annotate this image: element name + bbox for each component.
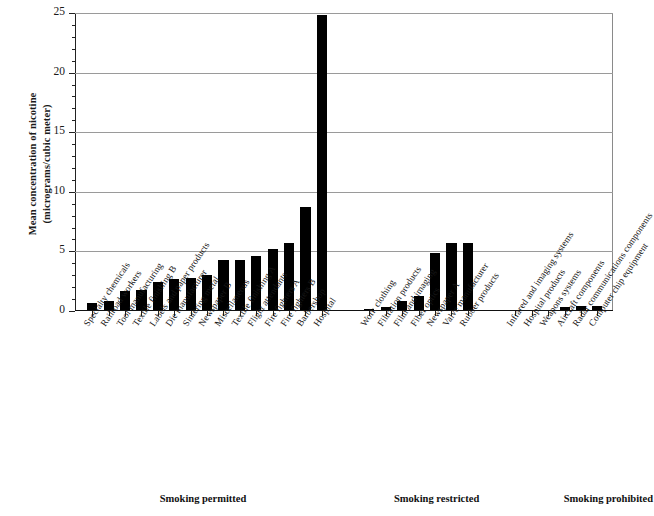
y-tick-minor-23 — [72, 37, 76, 38]
y-tick-minor-21 — [72, 61, 76, 62]
y-tick-minor-3 — [72, 275, 76, 276]
y-tick-minor-22 — [72, 49, 76, 50]
y-tick-major-5 — [69, 251, 75, 252]
y-tick-major-25 — [69, 13, 75, 14]
y-tick-label-10: 10 — [23, 184, 65, 196]
y-tick-minor-16 — [72, 120, 76, 121]
y-tick-major-15 — [69, 132, 75, 133]
gridline-10 — [75, 192, 613, 193]
y-tick-minor-7 — [72, 228, 76, 229]
panel-caption-1: Smoking restricted — [394, 493, 479, 504]
y-tick-major-20 — [69, 73, 75, 74]
y-tick-label-5: 5 — [23, 243, 65, 255]
y-tick-minor-8 — [72, 216, 76, 217]
panel-caption-0: Smoking permitted — [160, 493, 247, 504]
y-tick-minor-6 — [72, 239, 76, 240]
gridline-5 — [75, 251, 613, 252]
y-tick-minor-4 — [72, 263, 76, 264]
y-tick-minor-13 — [72, 156, 76, 157]
y-tick-minor-18 — [72, 96, 76, 97]
y-tick-major-10 — [69, 192, 75, 193]
y-tick-label-25: 25 — [23, 5, 65, 17]
y-axis-title-line1: Mean concentration of nicotine — [27, 93, 38, 236]
y-tick-minor-19 — [72, 85, 76, 86]
gridline-25 — [75, 13, 613, 14]
y-tick-minor-11 — [72, 180, 76, 181]
gridline-15 — [75, 132, 613, 133]
y-tick-minor-17 — [72, 108, 76, 109]
y-tick-minor-9 — [72, 204, 76, 205]
gridline-20 — [75, 73, 613, 74]
y-tick-label-0: 0 — [23, 303, 65, 315]
y-tick-minor-24 — [72, 25, 76, 26]
y-tick-label-15: 15 — [23, 124, 65, 136]
y-tick-minor-12 — [72, 168, 76, 169]
bar — [317, 15, 327, 311]
y-tick-label-20: 20 — [23, 65, 65, 77]
y-tick-major-0 — [69, 311, 75, 312]
panel-caption-2: Smoking prohibited — [564, 493, 653, 504]
y-tick-minor-14 — [72, 144, 76, 145]
y-tick-minor-2 — [72, 287, 76, 288]
y-tick-minor-1 — [72, 299, 76, 300]
